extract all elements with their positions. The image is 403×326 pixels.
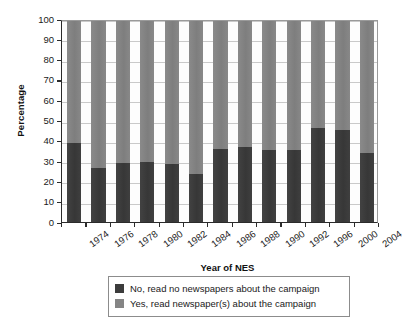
y-tick-label: 10	[43, 196, 54, 207]
bar-segment-yes[interactable]	[311, 21, 325, 130]
y-tick-label: 90	[43, 34, 54, 45]
bar-segment-yes[interactable]	[360, 21, 374, 155]
x-tick-label-1978: 1978	[136, 228, 160, 249]
legend-swatch-no-icon	[115, 284, 124, 293]
y-tick-label: 20	[43, 176, 54, 187]
bar-segment-no[interactable]	[165, 164, 179, 222]
x-tick-label-1992: 1992	[307, 228, 331, 249]
x-tick-mark	[61, 223, 62, 227]
bar-segment-yes[interactable]	[165, 21, 179, 166]
bar-segment-no[interactable]	[67, 143, 81, 222]
y-tick-label: 30	[43, 156, 54, 167]
bar-segment-yes[interactable]	[116, 21, 130, 165]
bar-segment-yes[interactable]	[238, 21, 252, 149]
x-tick-label-1974: 1974	[87, 228, 111, 249]
bar-group-1978[interactable]	[116, 21, 130, 222]
x-axis-title: Year of NES	[0, 262, 403, 273]
x-tick-mark	[110, 223, 111, 227]
x-tick-label-1980: 1980	[161, 228, 185, 249]
x-tick-label-1988: 1988	[258, 228, 282, 249]
bar-segment-no[interactable]	[140, 162, 154, 222]
bar-segment-no[interactable]	[262, 150, 276, 222]
bar-segment-yes[interactable]	[335, 21, 349, 132]
bar-group-2004[interactable]	[360, 21, 374, 222]
legend-item-no[interactable]: No, read no newspapers about the campaig…	[115, 281, 343, 296]
legend-label-yes: Yes, read newspaper(s) about the campaig…	[130, 299, 316, 309]
y-tick-label: 40	[43, 135, 54, 146]
bar-group-1992[interactable]	[287, 21, 301, 222]
x-tick-mark	[183, 223, 184, 227]
bar-group-1986[interactable]	[213, 21, 227, 222]
bar-segment-yes[interactable]	[189, 21, 203, 176]
bar-segment-no[interactable]	[335, 130, 349, 222]
legend-label-no: No, read no newspapers about the campaig…	[130, 284, 320, 294]
bar-segment-no[interactable]	[116, 163, 130, 222]
x-axis-title-text: Year of NES	[149, 262, 255, 273]
bar-segment-no[interactable]	[213, 149, 227, 222]
x-tick-label-2000: 2000	[356, 228, 380, 249]
bar-segment-no[interactable]	[287, 150, 301, 222]
x-tick-mark	[256, 223, 257, 227]
x-tick-label-1986: 1986	[234, 228, 258, 249]
bars-layer	[62, 21, 377, 222]
bar-segment-no[interactable]	[189, 174, 203, 222]
bar-group-1976[interactable]	[91, 21, 105, 222]
bar-segment-no[interactable]	[360, 153, 374, 222]
x-tick-label-1990: 1990	[283, 228, 307, 249]
bar-segment-no[interactable]	[91, 168, 105, 222]
bar-group-1984[interactable]	[189, 21, 203, 222]
bar-group-1974[interactable]	[67, 21, 81, 222]
y-axis-ticks: 0102030405060708090100	[0, 0, 61, 326]
x-tick-mark	[305, 223, 306, 227]
plot-area	[61, 20, 378, 223]
x-tick-label-2004: 2004	[380, 228, 403, 249]
y-tick-label: 70	[43, 74, 54, 85]
bar-segment-yes[interactable]	[140, 21, 154, 164]
bar-segment-yes[interactable]	[213, 21, 227, 151]
legend-swatch-yes-icon	[115, 299, 124, 308]
y-tick-label: 80	[43, 54, 54, 65]
legend-item-yes[interactable]: Yes, read newspaper(s) about the campaig…	[115, 296, 343, 311]
bar-segment-no[interactable]	[311, 128, 325, 222]
bar-segment-yes[interactable]	[287, 21, 301, 152]
x-tick-label-1996: 1996	[331, 228, 355, 249]
x-tick-mark	[378, 223, 379, 227]
bar-group-1988[interactable]	[238, 21, 252, 222]
bar-group-1990[interactable]	[262, 21, 276, 222]
x-tick-mark	[159, 223, 160, 227]
bar-group-2000[interactable]	[335, 21, 349, 222]
bar-segment-yes[interactable]	[67, 21, 81, 145]
x-tick-mark	[280, 223, 281, 227]
y-tick-label: 50	[43, 115, 54, 126]
bar-group-1982[interactable]	[165, 21, 179, 222]
x-tick-mark	[354, 223, 355, 227]
chart-figure: Percentage 0102030405060708090100 197419…	[0, 0, 403, 326]
y-tick-label: 100	[38, 14, 54, 25]
bar-segment-yes[interactable]	[91, 21, 105, 170]
x-tick-label-1984: 1984	[209, 228, 233, 249]
x-tick-mark	[329, 223, 330, 227]
x-tick-mark	[85, 223, 86, 227]
x-tick-mark	[207, 223, 208, 227]
x-tick-mark	[232, 223, 233, 227]
bar-segment-no[interactable]	[238, 147, 252, 222]
chart-legend: No, read no newspapers about the campaig…	[108, 276, 350, 317]
y-tick-label: 0	[49, 217, 54, 228]
x-tick-label-1982: 1982	[185, 228, 209, 249]
x-tick-label-1976: 1976	[112, 228, 136, 249]
y-tick-label: 60	[43, 95, 54, 106]
x-tick-mark	[134, 223, 135, 227]
bar-group-1980[interactable]	[140, 21, 154, 222]
bar-segment-yes[interactable]	[262, 21, 276, 152]
bar-group-1996[interactable]	[311, 21, 325, 222]
